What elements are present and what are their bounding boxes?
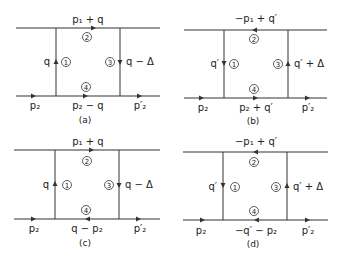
arrow-left-icon [252, 28, 257, 33]
panel-caption: (d) [247, 239, 260, 249]
top-momentum-label: −p₁ + q′ [235, 136, 278, 147]
vertex-number: 4 [84, 84, 89, 92]
vertex-number: 1 [65, 182, 69, 190]
arrow-left-icon [254, 218, 259, 223]
arrow-right-icon [136, 217, 141, 222]
incoming-momentum-label: p₂ [30, 100, 40, 111]
right-momentum-label: q′ + Δ [293, 181, 323, 192]
right-momentum-label: q − Δ [126, 56, 154, 67]
outgoing-momentum-label: p′₂ [134, 100, 147, 111]
arrow-right-icon [83, 94, 88, 99]
panel-caption: (b) [247, 116, 260, 126]
left-momentum-label: q′ [210, 58, 219, 69]
left-momentum-label: q′ [208, 181, 217, 192]
panel-caption: (c) [79, 238, 91, 248]
left-momentum-label: q [44, 56, 50, 67]
outgoing-momentum-label: p′₂ [302, 102, 315, 113]
vertex-number: 3 [274, 184, 278, 192]
arrow-down-icon [221, 183, 226, 188]
right-momentum-label: q − Δ [125, 179, 153, 190]
vertex-number: 1 [64, 59, 68, 67]
vertex-number: 4 [252, 208, 257, 216]
vertex-number: 1 [233, 184, 237, 192]
arrow-down-icon [118, 60, 123, 65]
arrow-down-icon [117, 183, 122, 188]
bottom-momentum-label: p₂ − q [72, 100, 103, 111]
vertex-number: 3 [107, 182, 111, 190]
vertex-number: 3 [276, 61, 280, 69]
incoming-momentum-label: p₂ [29, 223, 39, 234]
vertex-number: 2 [252, 159, 256, 167]
arrow-up-icon [286, 61, 291, 66]
arrow-right-icon [137, 94, 142, 99]
vertex-number: 4 [252, 86, 257, 94]
outgoing-momentum-label: p′₂ [302, 225, 315, 236]
arrow-right-icon [31, 217, 36, 222]
panel-caption: (a) [79, 115, 92, 125]
arrow-right-icon [305, 218, 310, 223]
arrow-right-icon [91, 26, 96, 31]
incoming-momentum-label: p₂ [198, 102, 208, 113]
vertex-number: 2 [252, 36, 256, 44]
feynman-box-diagrams-figure: 1 2 3 4 p₁ + q q q − Δ p₂ p₂ − q p′₂ (a) [0, 0, 343, 262]
panel-d: 1 2 3 4 −p₁ + q′ q′ q′ + Δ p₂ −q′ − p₂ p… [183, 136, 328, 249]
incoming-momentum-label: p₂ [196, 225, 206, 236]
bottom-momentum-label: p₂ + q′ [239, 102, 273, 113]
bottom-momentum-label: q − p₂ [71, 223, 102, 234]
arrow-right-icon [89, 148, 94, 153]
arrow-up-icon [54, 59, 59, 64]
vertex-number: 4 [84, 207, 89, 215]
arrow-up-icon [285, 183, 290, 188]
arrow-up-icon [53, 181, 58, 186]
arrow-right-icon [305, 96, 310, 101]
vertex-number: 1 [232, 61, 236, 69]
vertex-number: 2 [85, 158, 89, 166]
top-momentum-label: p₁ + q [72, 136, 103, 147]
arrow-right-icon [200, 218, 205, 223]
vertex-number: 3 [108, 59, 112, 67]
left-momentum-label: q [43, 179, 49, 190]
right-momentum-label: q′ + Δ [294, 58, 324, 69]
arrow-left-icon [85, 217, 90, 222]
top-momentum-label: −p₁ + q′ [235, 13, 278, 24]
arrow-right-icon [199, 96, 204, 101]
panel-c: 1 2 3 4 p₁ + q q q − Δ p₂ q − p₂ p′₂ (c) [14, 136, 160, 248]
diagram-svg: 1 2 3 4 p₁ + q q q − Δ p₂ p₂ − q p′₂ (a) [0, 0, 343, 262]
panel-a: 1 2 3 4 p₁ + q q q − Δ p₂ p₂ − q p′₂ (a) [16, 14, 160, 125]
top-momentum-label: p₁ + q [72, 14, 103, 25]
bottom-momentum-label: −q′ − p₂ [235, 225, 277, 236]
arrow-right-icon [253, 96, 258, 101]
panel-b: 1 2 3 4 −p₁ + q′ q′ q′ + Δ p₂ p₂ + q′ p′… [184, 13, 327, 126]
vertex-number: 2 [85, 34, 89, 42]
arrow-left-icon [253, 150, 258, 155]
outgoing-momentum-label: p′₂ [134, 223, 147, 234]
arrow-down-icon [222, 61, 227, 66]
arrow-right-icon [31, 94, 36, 99]
